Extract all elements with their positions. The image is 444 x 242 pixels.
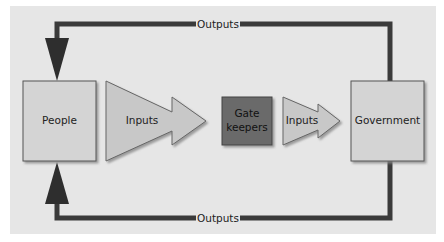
bottom-outputs-label: Outputs: [196, 212, 240, 224]
top-outputs-label: Outputs: [196, 18, 240, 30]
inputs-large-label: Inputs: [112, 114, 172, 127]
up-arrow-icon: [45, 162, 69, 204]
government-label: Government: [351, 114, 424, 127]
bottom-output-connector: [45, 161, 390, 218]
inputs-small-label: Inputs: [284, 114, 320, 127]
top-output-connector: [45, 24, 390, 81]
gatekeepers-label-line1: Gate: [222, 107, 272, 120]
down-arrow-icon: [45, 38, 69, 81]
gatekeepers-label-line2: keepers: [222, 121, 272, 134]
people-label: People: [23, 114, 96, 127]
